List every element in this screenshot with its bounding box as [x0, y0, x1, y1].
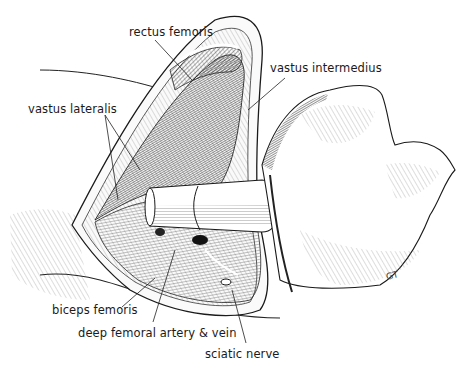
label-deep-femoral-artery-vein: deep femoral artery & vein [78, 328, 237, 340]
label-vastus-lateralis: vastus lateralis [28, 104, 117, 116]
label-vastus-intermedius: vastus intermedius [270, 63, 382, 75]
femur-bone [145, 180, 278, 232]
sciatic-nerve-shape [221, 279, 231, 285]
deep-femoral-vessels [192, 235, 208, 245]
label-biceps-femoris: biceps femoris [52, 305, 138, 317]
label-rectus-femoris: rectus femoris [129, 27, 213, 39]
thigh-section-wedge [72, 16, 268, 315]
skin-flap [262, 86, 455, 292]
label-sciatic-nerve: sciatic nerve [205, 349, 280, 361]
anatomy-figure: GT rectus femoris vastus intermedius vas… [0, 0, 463, 369]
